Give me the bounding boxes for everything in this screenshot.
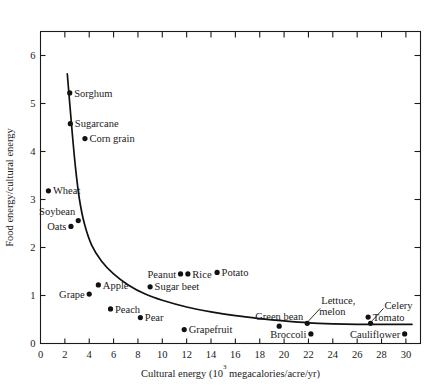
data-point [46,188,51,193]
chart-canvas: 024681012141618202224262830 0123456 Sorg… [0,0,439,386]
x-tick-label: 16 [230,349,241,360]
data-point [96,282,101,287]
y-tick-label: 1 [30,290,35,301]
data-point [215,270,220,275]
data-point [68,121,73,126]
data-point [138,315,143,320]
data-point [185,271,190,276]
y-tick-label: 2 [30,242,35,253]
point-label: Oats [47,221,66,232]
data-point [402,331,407,336]
data-point [178,271,183,276]
point-label: Corn grain [89,133,135,144]
x-tick-label: 28 [376,349,387,360]
point-label: Pear [145,312,164,323]
plot-frame [41,32,421,344]
x-tick-label: 2 [62,349,67,360]
x-tick-label: 20 [279,349,290,360]
point-label: Rice [192,269,212,280]
point-label: Sorghum [74,88,112,99]
x-tick-label: 24 [328,349,339,360]
point-label: Soybean [39,206,76,217]
y-axis-title: Food energy/cultural energy [4,127,15,246]
y-tick-label: 6 [30,50,35,61]
data-point [148,284,153,289]
y-tick-label: 4 [30,146,36,157]
point-label: Apple [103,280,129,291]
x-tick-label: 12 [181,349,192,360]
data-point [87,291,92,296]
x-tick-label: 8 [135,349,140,360]
data-point [308,331,313,336]
data-point [82,136,87,141]
point-label: Broccoli [270,329,306,340]
y-tick-label: 5 [30,98,35,109]
point-label: Peanut [147,269,176,280]
data-point [76,218,81,223]
data-point [67,90,72,95]
data-point [366,315,371,320]
x-tick-label: 14 [206,349,217,360]
y-axis-title-text: Food energy/cultural energy [4,127,15,246]
point-label: Sugarcane [75,118,119,129]
x-axis-title-text: Cultural energy (103 megacalories/acre/y… [141,363,321,380]
data-point [68,224,73,229]
scatter-plot-figure: 024681012141618202224262830 0123456 Sorg… [0,0,439,386]
plot-box [41,32,421,344]
x-axis-tick-labels: 024681012141618202224262830 [38,349,411,360]
data-point [305,321,310,326]
point-label: Green bean [255,311,304,322]
data-point [182,327,187,332]
x-tick-label: 26 [352,349,363,360]
point-label: Grapefruit [189,324,233,335]
x-tick-label: 22 [303,349,314,360]
y-tick-label: 0 [30,338,35,349]
x-tick-label: 18 [254,349,265,360]
point-label: Celery [385,300,414,311]
point-label: Grape [59,289,85,300]
point-label: Peach [115,304,141,315]
point-label: Potato [222,267,249,278]
x-tick-label: 6 [111,349,116,360]
x-axis-title: Cultural energy (103 megacalories/acre/y… [141,363,321,380]
point-label: Sugar beet [155,281,200,292]
y-axis-tick-labels: 0123456 [30,50,36,349]
point-label: Cauliflower [350,329,401,340]
point-label: Wheat [53,185,80,196]
data-point [108,306,113,311]
x-tick-label: 10 [157,349,168,360]
y-tick-label: 3 [30,194,35,205]
data-point-labels: SorghumSugarcaneCorn grainWheatSoybeanOa… [39,88,413,340]
point-label: Tomato [373,312,405,323]
x-tick-label: 0 [38,349,43,360]
x-tick-label: 30 [401,349,412,360]
point-label: Lettuce,melon [319,295,355,317]
x-tick-label: 4 [87,349,93,360]
